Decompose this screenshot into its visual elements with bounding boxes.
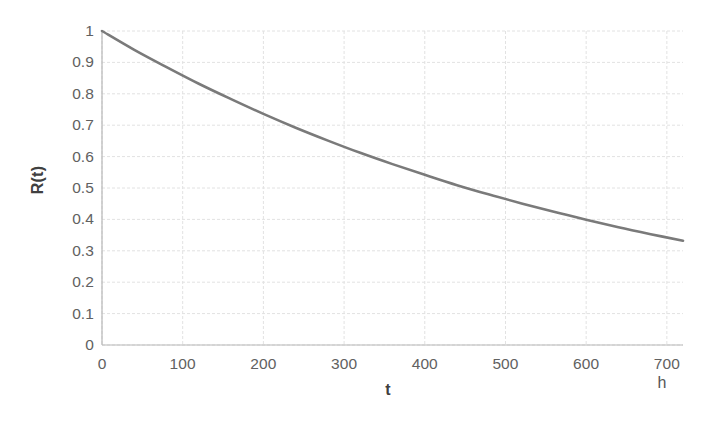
y-tick-label: 0.9	[48, 54, 94, 70]
y-tick-label: 0	[48, 337, 94, 353]
x-tick-label: 200	[233, 356, 293, 372]
y-axis-tick-labels: 00.10.20.30.40.50.60.70.80.91	[46, 31, 94, 345]
plot-area	[102, 31, 683, 345]
series-line-0	[102, 31, 683, 241]
y-tick-label: 0.6	[48, 149, 94, 165]
reliability-decay-chart: 00.10.20.30.40.50.60.70.80.91 R(t) 01002…	[0, 0, 709, 421]
y-axis-title: R(t)	[29, 153, 47, 207]
data-curve-layer	[102, 31, 683, 345]
y-tick-label: 0.7	[48, 117, 94, 133]
x-tick-label: 400	[395, 356, 455, 372]
x-axis-unit-label: h	[648, 374, 676, 392]
x-axis-tick-labels: 0100200300400500600700	[102, 356, 683, 376]
x-tick-label: 0	[72, 356, 132, 372]
y-tick-label: 0.1	[48, 306, 94, 322]
x-tick-label: 500	[475, 356, 535, 372]
x-axis-title: t	[358, 381, 418, 399]
x-tick-label: 700	[637, 356, 697, 372]
y-tick-label: 0.3	[48, 243, 94, 259]
y-tick-label: 1	[48, 23, 94, 39]
y-tick-label: 0.4	[48, 211, 94, 227]
y-tick-label: 0.8	[48, 86, 94, 102]
x-tick-label: 600	[556, 356, 616, 372]
x-tick-label: 100	[153, 356, 213, 372]
y-tick-label: 0.2	[48, 274, 94, 290]
x-tick-label: 300	[314, 356, 374, 372]
y-tick-label: 0.5	[48, 180, 94, 196]
